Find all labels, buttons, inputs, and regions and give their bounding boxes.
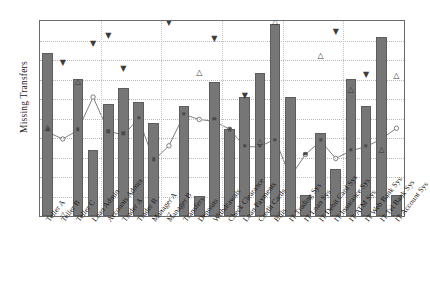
line-marker-circle [394,126,398,130]
line-marker-circle [167,144,171,148]
scatter-marker-filled-triangle: ▼ [105,32,111,40]
y-tick-left [39,60,40,61]
y-tick-left [39,80,40,81]
y-tick-right [404,80,405,81]
scatter-marker-filled-triangle: ▼ [211,35,217,43]
scatter-marker-open-triangle: △ [378,146,384,154]
scatter-marker-square [304,152,307,155]
y-tick-right [404,41,405,42]
scatter-marker-square [122,131,125,134]
scatter-marker-filled-triangle: ▼ [333,28,339,36]
gridline-vertical [404,21,405,216]
bar [315,133,326,216]
scatter-marker-square [76,128,79,131]
y-tick-right [404,119,405,120]
bar [103,104,114,216]
scatter-marker-open-triangle: △ [318,52,324,60]
y-axis-title: Missing Transfers [19,27,29,167]
bar [88,150,99,216]
scatter-marker-open-triangle: △ [272,20,278,26]
gridline-vertical [343,21,344,216]
x-tick-top [101,20,102,21]
bar [285,97,296,216]
x-tick-top [404,20,405,21]
y-tick-left [39,138,40,139]
y-tick-right [404,197,405,198]
scatter-marker-open-triangle: △ [166,211,172,217]
gridline-vertical [101,21,102,216]
x-tick-top [222,20,223,21]
bar [179,106,190,216]
y-tick-right [404,158,405,159]
gridline-vertical [222,21,223,216]
y-tick-left [39,41,40,42]
gridline-vertical [161,21,162,216]
scatter-marker-filled-triangle: ▼ [166,20,172,27]
bar [42,53,53,216]
bar [330,169,341,216]
scatter-marker-filled-triangle: ▼ [363,71,369,79]
bar [73,79,84,216]
scatter-marker-square [319,138,322,141]
y-tick-left [39,177,40,178]
scatter-marker-filled-triangle: ▼ [242,92,248,100]
y-tick-right [404,99,405,100]
scatter-marker-open-triangle: △ [196,69,202,77]
bar [361,106,372,216]
scatter-marker-square [243,144,246,147]
scatter-marker-square [273,138,276,141]
y-tick-left [39,197,40,198]
bar [300,195,311,216]
scatter-marker-open-triangle: △ [60,211,66,217]
y-tick-right [404,60,405,61]
scatter-marker-square [182,112,185,115]
scatter-marker-open-triangle: △ [257,138,263,146]
y-tick-left [39,158,40,159]
scatter-marker-square [152,158,155,161]
gridline-vertical [283,21,284,216]
scatter-marker-square [107,129,110,132]
scatter-marker-square [137,116,140,119]
bar [376,37,387,216]
y-tick-right [404,138,405,139]
plot-area: △△△△△△△△△△△▼▼▼▼▼▼▼▼▼ [39,20,405,217]
y-tick-left [39,99,40,100]
bar [148,123,159,216]
scatter-marker-open-triangle: △ [75,78,81,86]
x-tick-top [343,20,344,21]
bar [391,195,402,216]
scatter-marker-filled-triangle: ▼ [90,40,96,48]
scatter-marker-square [364,144,367,147]
y-tick-right [404,177,405,178]
y-tick-left [39,119,40,120]
bar [209,82,220,216]
bar [239,97,250,216]
bar [270,24,281,216]
scatter-marker-open-triangle: △ [45,124,51,132]
scatter-marker-open-triangle: △ [393,72,399,80]
scatter-marker-filled-triangle: ▼ [120,65,126,73]
x-tick-top [161,20,162,21]
scatter-marker-square [349,148,352,151]
scatter-marker-square [213,117,216,120]
scatter-marker-square [228,128,231,131]
bar [194,196,205,216]
bar [118,88,129,216]
scatter-marker-open-triangle: △ [348,86,354,94]
x-tick-top [283,20,284,21]
bar [224,129,235,216]
scatter-marker-filled-triangle: ▼ [60,59,66,67]
